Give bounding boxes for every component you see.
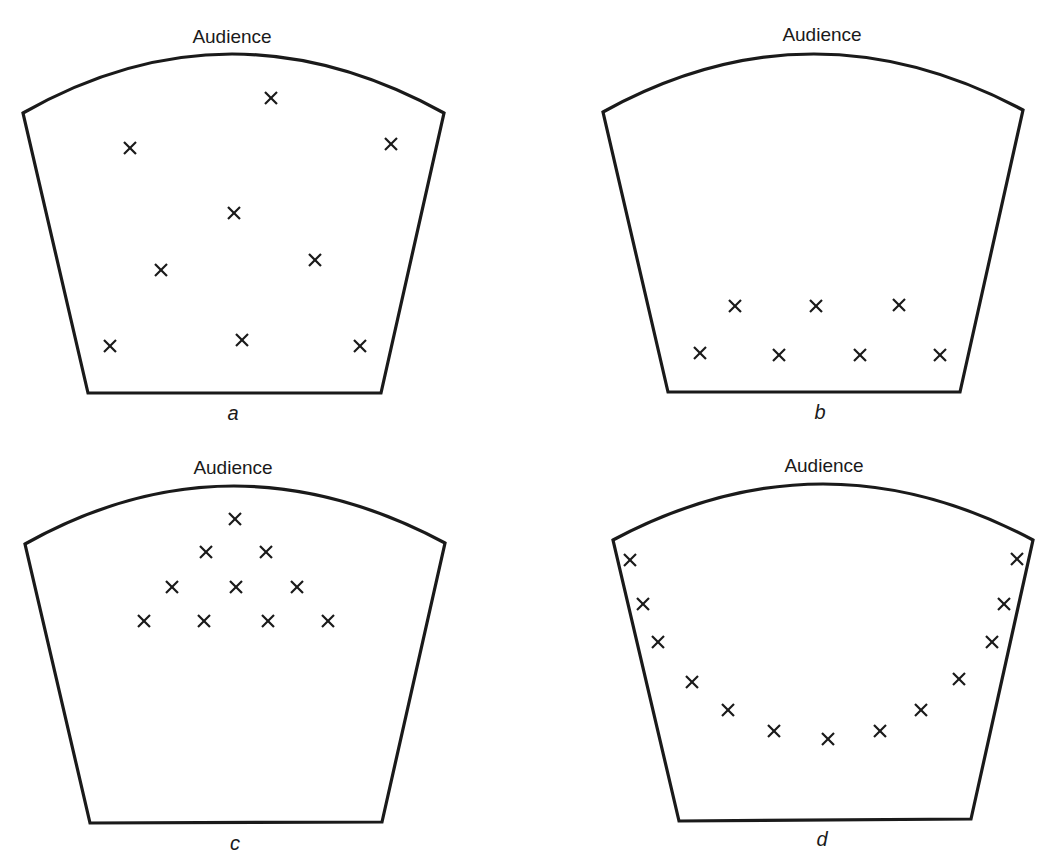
performer-x-icon [291, 581, 303, 593]
performer-x-icon [810, 300, 822, 312]
panel-caption-c: c [230, 832, 240, 854]
audience-label-a: Audience [192, 26, 271, 47]
performer-x-icon [155, 264, 167, 276]
performer-x-icon [822, 733, 834, 745]
performer-x-icon [262, 615, 274, 627]
performer-x-icon [893, 299, 905, 311]
performer-x-icon [686, 676, 698, 688]
performer-x-icon [729, 300, 741, 312]
performer-marks-b [694, 299, 946, 361]
performer-x-icon [722, 704, 734, 716]
performer-x-icon [200, 546, 212, 558]
performer-x-icon [874, 725, 886, 737]
performer-x-icon [854, 349, 866, 361]
panel-b: Audience b [603, 24, 1023, 423]
performer-marks-a [104, 92, 397, 352]
performer-x-icon [1011, 553, 1023, 565]
performer-marks-d [624, 553, 1023, 745]
performer-x-icon [773, 349, 785, 361]
audience-label-d: Audience [784, 455, 863, 476]
performer-x-icon [198, 615, 210, 627]
performer-x-icon [230, 581, 242, 593]
performer-x-icon [236, 334, 248, 346]
panel-caption-a: a [227, 402, 238, 424]
panel-a: Audience a [23, 26, 444, 424]
panel-d: Audience d [613, 455, 1033, 850]
stage-outline-d [613, 484, 1033, 821]
staging-diagram: Audience a Audience b Audience c Audienc… [0, 0, 1062, 863]
performer-x-icon [309, 254, 321, 266]
audience-label-b: Audience [782, 24, 861, 45]
performer-marks-c [138, 513, 334, 627]
audience-label-c: Audience [193, 457, 272, 478]
performer-x-icon [953, 673, 965, 685]
performer-x-icon [694, 347, 706, 359]
performer-x-icon [637, 598, 649, 610]
panel-c: Audience c [25, 457, 445, 854]
performer-x-icon [228, 207, 240, 219]
performer-x-icon [354, 340, 366, 352]
performer-x-icon [385, 138, 397, 150]
performer-x-icon [915, 704, 927, 716]
performer-x-icon [652, 636, 664, 648]
performer-x-icon [124, 142, 136, 154]
performer-x-icon [104, 340, 116, 352]
performer-x-icon [934, 349, 946, 361]
performer-x-icon [322, 615, 334, 627]
performer-x-icon [265, 92, 277, 104]
stage-outline-c [25, 486, 445, 823]
stage-outline-b [603, 54, 1023, 392]
performer-x-icon [260, 546, 272, 558]
performer-x-icon [166, 581, 178, 593]
panel-caption-b: b [814, 401, 825, 423]
stage-outline-a [23, 54, 444, 393]
performer-x-icon [138, 615, 150, 627]
performer-x-icon [768, 725, 780, 737]
panel-caption-d: d [816, 828, 828, 850]
performer-x-icon [986, 636, 998, 648]
performer-x-icon [998, 598, 1010, 610]
performer-x-icon [624, 554, 636, 566]
performer-x-icon [229, 513, 241, 525]
